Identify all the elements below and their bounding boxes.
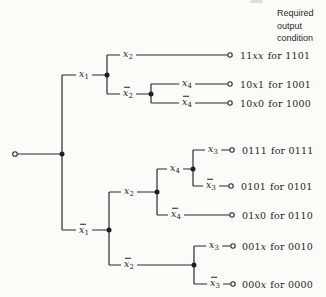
junction-dot-root <box>60 152 65 157</box>
heading-line: condition <box>277 32 314 45</box>
junction-dot-xbar1-xbar2 <box>192 263 197 268</box>
branch-label-x1: x1 <box>76 69 92 82</box>
junction-dot-x1-xbar2 <box>149 92 154 97</box>
branch-label-x3-lower: x3 <box>206 240 222 253</box>
branch-label-x2-top: x2 <box>120 49 136 62</box>
heading-line: output <box>277 20 314 33</box>
output-row-0010: 001xfor 0010 <box>242 241 313 252</box>
branch-label-x2-bottom: x2 <box>121 186 137 199</box>
branch-label-x3-upper: x3 <box>205 144 221 157</box>
output-condition: for 0111 <box>271 145 314 156</box>
output-condition: for 0101 <box>270 181 313 192</box>
branch-label-xbar2-top: x2 <box>120 88 136 101</box>
output-condition: for 1000 <box>268 98 311 109</box>
junction-dot-xbar1-x2 <box>155 190 160 195</box>
xbar1-subtree-lines <box>109 192 194 265</box>
junction-dot-xbar1 <box>107 228 112 233</box>
junction-dot-x4 <box>191 167 196 172</box>
leaf-terminal-circle-0101 <box>229 184 233 188</box>
branch-label-xbar4-bottom: x4 <box>168 209 184 222</box>
leaf-terminal-circle-0111 <box>230 148 234 152</box>
root-terminal-circle <box>13 152 18 157</box>
output-pattern: 000x <box>242 279 266 290</box>
branch-label-x4-top: x4 <box>179 78 195 91</box>
leaf-terminal-circle-1001 <box>228 82 232 86</box>
branch-label-x4-bottom: x4 <box>167 163 183 176</box>
output-pattern: 0111 <box>242 145 267 156</box>
output-row-1101: 11xxfor 1101 <box>240 50 310 61</box>
output-row-1000: 10x0for 1000 <box>240 98 311 109</box>
output-row-0110: 01x0for 0110 <box>242 210 313 221</box>
branch-label-xbar4-top: x4 <box>179 97 195 110</box>
output-condition: for 1001 <box>268 79 311 90</box>
output-row-1001: 10x1for 1001 <box>240 79 311 90</box>
leaf-terminal-circle-1101 <box>228 53 232 57</box>
output-row-0111: 0111for 0111 <box>242 145 314 156</box>
leaf-terminal-circle-1000 <box>228 101 232 105</box>
output-pattern: 01x0 <box>242 210 266 221</box>
output-condition: for 0110 <box>270 210 313 221</box>
branch-label-xbar3-lower: x3 <box>207 278 223 291</box>
output-pattern: 0101 <box>241 181 266 192</box>
branch-label-xbar2-bottom: x2 <box>121 259 137 272</box>
leaf-terminal-circle-0110 <box>230 213 234 217</box>
main-trunk-line <box>62 75 109 230</box>
output-pattern: 001x <box>242 241 266 252</box>
output-condition: for 0010 <box>270 241 313 252</box>
output-pattern: 10x1 <box>240 79 264 90</box>
output-row-0000: 000xfor 0000 <box>242 279 313 290</box>
leaf-terminal-circle-0010 <box>231 244 235 248</box>
branch-label-xbar1: x1 <box>76 225 92 238</box>
required-output-condition-heading: Required output condition <box>277 7 314 45</box>
output-condition: for 1101 <box>268 50 311 61</box>
junction-dot-x1 <box>105 73 110 78</box>
scanned-figure-page: x1 x2 x2 x4 x4 x1 x2 x4 x3 x3 x4 x2 x3 x… <box>0 0 326 297</box>
output-condition: for 0000 <box>270 279 313 290</box>
branch-label-xbar3-upper: x3 <box>203 180 219 193</box>
output-row-0101: 0101for 0101 <box>241 181 313 192</box>
output-pattern: 10x0 <box>240 98 264 109</box>
output-pattern: 11xx <box>240 50 264 61</box>
leaf-terminal-circle-0000 <box>231 282 235 286</box>
heading-line: Required <box>277 7 314 20</box>
